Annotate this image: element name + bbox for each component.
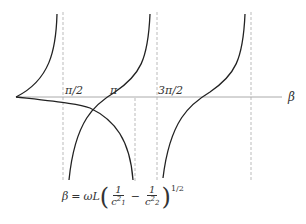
- frac2-denominator: c22: [145, 196, 160, 209]
- dispersion-formula: β = ωL ( 1 c21 − 1 c22 ) 1/2: [62, 184, 184, 209]
- frac1-denominator: c21: [111, 196, 126, 209]
- formula-exponent: 1/2: [171, 184, 184, 193]
- axis-label-beta: β: [287, 90, 295, 104]
- formula-fraction-1: 1 c21: [111, 184, 126, 209]
- curve-branch-1-lower: [16, 97, 133, 180]
- formula-lhs: β: [62, 190, 68, 203]
- formula-fraction-2: 1 c22: [145, 184, 160, 209]
- tick-label-pi-half: π/2: [64, 84, 83, 97]
- formula-close-paren: ): [162, 185, 171, 209]
- curve-branch-1-upper: [16, 14, 57, 97]
- formula-coeff: ωL: [84, 190, 100, 203]
- formula-open-paren: (: [100, 185, 109, 209]
- tick-label-3pi-half: 3π/2: [158, 84, 183, 97]
- formula-eq: =: [71, 190, 80, 203]
- formula-minus: −: [131, 190, 140, 203]
